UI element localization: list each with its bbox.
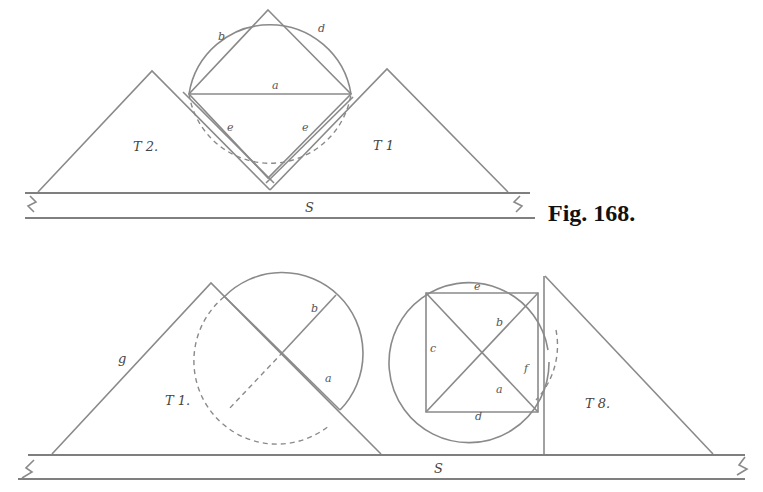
- bottom-right-label-f: f: [523, 362, 530, 375]
- bottom-straightedge-break-right-icon: [737, 457, 747, 475]
- bottom-right-label-d: d: [475, 410, 482, 423]
- bottom-triangle-left: [52, 283, 381, 454]
- bottom-right-label-b: b: [496, 316, 503, 329]
- top-triangle-right-inner-edge: [266, 97, 353, 183]
- bottom-triangle-side-label-g: g: [118, 351, 126, 366]
- top-label-e-left: e: [227, 121, 234, 134]
- top-straightedge-label: S: [305, 200, 314, 215]
- bottom-straightedge-label: S: [434, 461, 443, 476]
- top-straightedge-break-right-icon: [514, 196, 522, 212]
- bottom-right-label-a: a: [496, 383, 503, 396]
- bottom-left-circle-arc-dashed: [194, 297, 330, 444]
- bottom-triangle-right-hypotenuse: [545, 276, 713, 454]
- bottom-figure: b a g T 1. e b c f a d T 8. S: [18, 273, 747, 479]
- bottom-left-label-a: a: [325, 372, 332, 385]
- bottom-right-circle-arc-dashed: [536, 330, 558, 400]
- top-figure: b d a e e T 2. T 1 S: [25, 10, 535, 218]
- top-label-d: d: [318, 22, 325, 35]
- bottom-triangle-left-label: T 1.: [165, 393, 190, 408]
- bottom-right-label-e-top: e: [474, 280, 481, 293]
- top-triangle-right-label: T 1: [373, 138, 394, 153]
- geometric-construction-diagram: b d a e e T 2. T 1 S b a g T 1.: [0, 0, 763, 492]
- bottom-right-label-c: c: [430, 342, 436, 355]
- top-straightedge-break-left-icon: [28, 196, 36, 212]
- top-triangle-left: [38, 71, 270, 192]
- top-circle-lower-arc-dashed: [189, 94, 351, 163]
- top-circle-upper-arc: [189, 25, 351, 94]
- top-label-b: b: [218, 30, 225, 43]
- bottom-left-radius-b: [283, 295, 336, 352]
- bottom-left-radius-dashed: [228, 352, 283, 410]
- bottom-triangle-right-label: T 8.: [585, 396, 610, 411]
- top-label-a: a: [272, 79, 279, 92]
- figure-caption: Fig. 168.: [548, 200, 635, 227]
- top-triangle-left-label: T 2.: [133, 139, 158, 154]
- bottom-left-label-b: b: [311, 302, 318, 315]
- top-label-e-right: e: [302, 121, 309, 134]
- bottom-straightedge-break-left-icon: [22, 460, 34, 478]
